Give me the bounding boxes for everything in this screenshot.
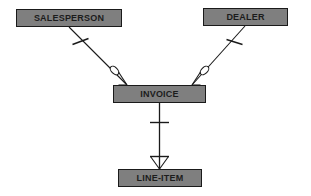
- entity-invoice[interactable]: INVOICE: [113, 85, 206, 103]
- entity-label-salesperson: SALESPERSON: [34, 14, 104, 23]
- relationship-salesperson-invoice[interactable]: [69, 27, 127, 85]
- relationship-invoice-lineitem[interactable]: [150, 103, 169, 169]
- entity-label-dealer: DEALER: [226, 13, 264, 22]
- cardinality-zero-circle-invoice-end: [109, 65, 121, 77]
- relationship-line-dealer-invoice: [192, 26, 245, 85]
- relationship-line-salesperson-invoice: [69, 27, 127, 85]
- relationship-dealer-invoice[interactable]: [192, 26, 245, 85]
- entity-salesperson[interactable]: SALESPERSON: [16, 9, 122, 27]
- entity-lineitem[interactable]: LINE-ITEM: [118, 169, 202, 187]
- entity-label-lineitem: LINE-ITEM: [137, 174, 184, 183]
- entity-label-invoice: INVOICE: [140, 90, 178, 99]
- cardinality-crowsfoot-invoice-end-dealer: [192, 72, 201, 85]
- er-diagram: SALESPERSON DEALER INVOICE LINE-ITEM: [0, 0, 311, 196]
- entity-dealer[interactable]: DEALER: [203, 8, 288, 26]
